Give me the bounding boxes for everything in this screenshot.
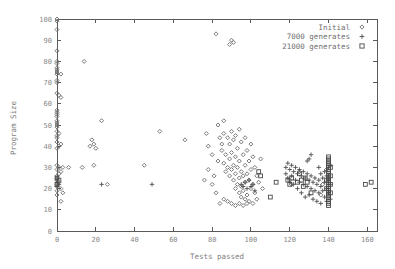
x-tick-label: 20 bbox=[92, 236, 100, 244]
data-point-square bbox=[360, 44, 364, 48]
data-point-diamond bbox=[226, 136, 230, 140]
data-point-diamond bbox=[253, 165, 257, 169]
data-point-plus bbox=[247, 178, 251, 182]
data-point-diamond bbox=[259, 157, 263, 161]
data-point-diamond bbox=[245, 201, 249, 205]
x-tick-label: 140 bbox=[322, 236, 335, 244]
data-point-diamond bbox=[230, 151, 234, 155]
data-point-diamond bbox=[249, 142, 253, 146]
data-point-plus bbox=[319, 184, 323, 188]
chart-legend: Initial7000 generates21000 generates bbox=[282, 23, 364, 51]
data-point-square bbox=[274, 180, 278, 184]
data-point-diamond bbox=[57, 131, 61, 135]
data-point-diamond bbox=[247, 199, 251, 203]
data-point-square bbox=[257, 170, 261, 174]
data-point-diamond bbox=[224, 170, 228, 174]
plot-canvas: 0102030405060708090100 02040608010012014… bbox=[0, 0, 395, 269]
data-point-diamond bbox=[245, 193, 249, 197]
data-point-diamond bbox=[59, 170, 63, 174]
data-point-diamond bbox=[82, 59, 86, 63]
data-point-diamond bbox=[245, 172, 249, 176]
data-point-square bbox=[363, 182, 367, 186]
data-point-diamond bbox=[231, 163, 235, 167]
data-point-diamond bbox=[218, 136, 222, 140]
data-point-plus bbox=[295, 186, 299, 190]
data-point-plus bbox=[360, 34, 365, 39]
x-axis-label: Tests passed bbox=[190, 252, 244, 261]
data-point-diamond bbox=[100, 119, 104, 123]
data-point-diamond bbox=[239, 140, 243, 144]
data-point-plus bbox=[311, 197, 315, 201]
data-point-diamond bbox=[245, 148, 249, 152]
data-point-plus bbox=[317, 178, 321, 182]
x-axis-ticks: 020406080100120140160 bbox=[55, 19, 374, 244]
data-point-diamond bbox=[224, 153, 228, 157]
data-point-plus bbox=[309, 152, 313, 156]
data-point-diamond bbox=[247, 159, 251, 163]
data-point-diamond bbox=[67, 165, 71, 169]
data-point-diamond bbox=[235, 182, 239, 186]
x-tick-label: 160 bbox=[361, 236, 374, 244]
data-point-plus bbox=[311, 180, 315, 184]
data-point-square bbox=[369, 180, 373, 184]
data-point-diamond bbox=[251, 155, 255, 159]
series-2 bbox=[55, 155, 373, 208]
data-point-diamond bbox=[57, 93, 61, 97]
data-point-diamond bbox=[90, 138, 94, 142]
data-point-diamond bbox=[237, 127, 241, 131]
data-point-plus bbox=[305, 172, 309, 176]
y-tick-label: 50 bbox=[44, 122, 52, 130]
data-point-diamond bbox=[261, 187, 265, 191]
data-point-diamond bbox=[251, 201, 255, 205]
data-point-diamond bbox=[237, 201, 241, 205]
data-point-square bbox=[305, 180, 309, 184]
data-point-diamond bbox=[255, 174, 259, 178]
data-point-diamond bbox=[202, 178, 206, 182]
data-point-plus bbox=[315, 182, 319, 186]
data-point-diamond bbox=[222, 197, 226, 201]
data-point-diamond bbox=[237, 191, 241, 195]
y-axis-label: Program Size bbox=[9, 100, 18, 155]
data-point-diamond bbox=[210, 182, 214, 186]
data-point-diamond bbox=[230, 129, 234, 133]
data-point-diamond bbox=[212, 174, 216, 178]
data-point-diamond bbox=[235, 165, 239, 169]
data-point-diamond bbox=[57, 172, 61, 176]
data-point-diamond bbox=[228, 142, 232, 146]
data-point-diamond bbox=[233, 187, 237, 191]
data-point-diamond bbox=[228, 42, 232, 46]
data-point-diamond bbox=[239, 170, 243, 174]
data-point-plus bbox=[293, 165, 297, 169]
data-point-diamond bbox=[233, 204, 237, 208]
data-point-diamond bbox=[214, 32, 218, 36]
data-point-square bbox=[299, 178, 303, 182]
y-tick-label: 70 bbox=[44, 79, 52, 87]
data-point-diamond bbox=[216, 159, 220, 163]
data-point-diamond bbox=[230, 168, 234, 172]
data-point-diamond bbox=[206, 168, 210, 172]
data-point-diamond bbox=[218, 201, 222, 205]
x-tick-label: 100 bbox=[245, 236, 258, 244]
data-point-diamond bbox=[222, 161, 226, 165]
x-tick-label: 120 bbox=[283, 236, 296, 244]
data-point-diamond bbox=[243, 197, 247, 201]
data-point-plus bbox=[309, 186, 313, 190]
data-point-diamond bbox=[319, 193, 323, 197]
data-point-plus bbox=[288, 167, 292, 171]
data-point-diamond bbox=[222, 131, 226, 135]
data-point-diamond bbox=[241, 204, 245, 208]
data-point-diamond bbox=[230, 38, 234, 42]
data-point-diamond bbox=[183, 138, 187, 142]
data-point-diamond bbox=[61, 165, 65, 169]
y-tick-label: 90 bbox=[44, 37, 52, 45]
data-point-diamond bbox=[94, 146, 98, 150]
data-point-plus bbox=[317, 165, 321, 169]
data-point-diamond bbox=[241, 153, 245, 157]
data-point-diamond bbox=[59, 199, 63, 203]
data-point-diamond bbox=[235, 146, 239, 150]
y-tick-label: 60 bbox=[44, 100, 52, 108]
x-tick-label: 0 bbox=[55, 236, 59, 244]
data-point-plus bbox=[245, 186, 249, 190]
legend-label: 21000 generates bbox=[282, 42, 350, 51]
data-point-plus bbox=[319, 201, 323, 205]
